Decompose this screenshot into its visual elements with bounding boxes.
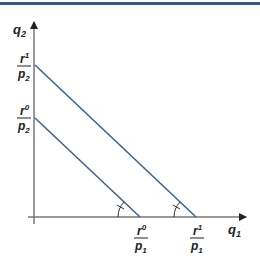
- svg-text:r1: r1: [193, 223, 203, 238]
- svg-text:p1: p1: [134, 239, 147, 255]
- y-axis-label: q2: [13, 22, 26, 39]
- x-intercept-label-initial: r0 p1: [134, 223, 148, 255]
- angle-mark-initial: [117, 202, 124, 217]
- svg-text:p2: p2: [17, 67, 30, 83]
- svg-text:p1: p1: [190, 239, 203, 255]
- svg-text:r0: r0: [137, 223, 147, 238]
- angle-mark-new: [173, 202, 180, 217]
- svg-text:r0: r0: [20, 103, 30, 118]
- y-intercept-label-new: r1 p2: [17, 51, 31, 83]
- y-intercept-label-initial: r0 p2: [17, 103, 31, 135]
- x-intercept-label-new: r1 p1: [190, 223, 204, 255]
- x-axis-label: q1: [228, 222, 241, 239]
- budget-line-initial: [35, 118, 140, 217]
- svg-text:p2: p2: [17, 119, 30, 135]
- budget-diagram: q2 q1 r1 p2 r0 p2 r0 p1 r1 p1: [0, 0, 260, 263]
- svg-text:r1: r1: [20, 51, 30, 66]
